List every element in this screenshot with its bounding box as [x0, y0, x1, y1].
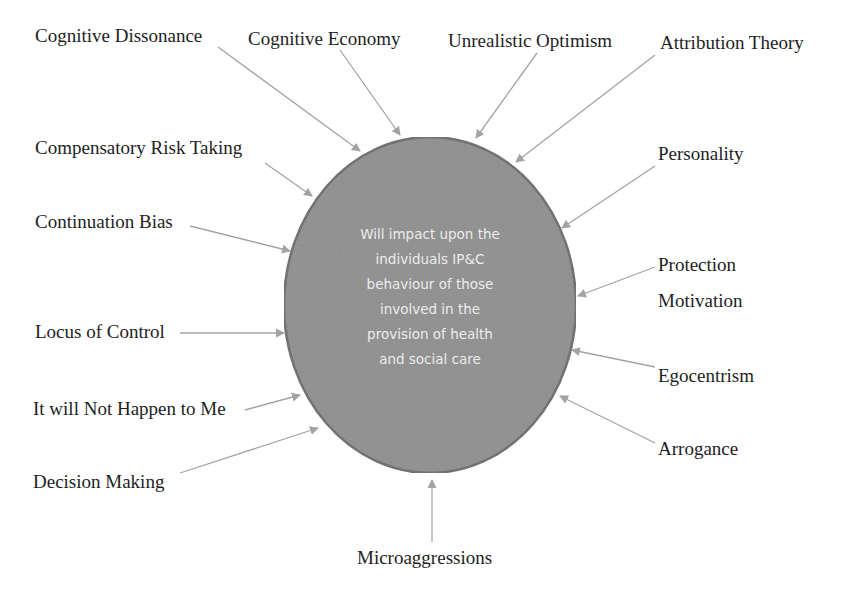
central-line: Will impact upon the — [330, 222, 530, 247]
factor-arrow — [560, 396, 655, 443]
factor-arrow — [245, 395, 300, 410]
factor-label: Arrogance — [658, 438, 738, 460]
factor-label: Compensatory Risk Taking — [35, 137, 242, 159]
factor-arrow — [340, 50, 400, 135]
factor-label: Motivation — [658, 290, 742, 312]
factor-arrow — [562, 166, 655, 228]
factor-label: It will Not Happen to Me — [33, 398, 226, 420]
factor-label: Protection — [658, 254, 736, 276]
factor-arrow — [516, 55, 655, 162]
factor-label: Unrealistic Optimism — [448, 30, 612, 52]
factor-label: Cognitive Economy — [248, 28, 401, 50]
factor-arrow — [476, 53, 537, 138]
factor-label: Egocentrism — [658, 365, 754, 387]
central-line: involved in the — [330, 297, 530, 322]
factor-label: Personality — [658, 143, 744, 165]
central-line: behaviour of those — [330, 272, 530, 297]
factor-label: Decision Making — [33, 471, 164, 493]
factor-arrow — [218, 47, 360, 151]
factor-label: Attribution Theory — [660, 32, 804, 54]
factor-arrow — [265, 163, 312, 196]
central-statement: Will impact upon the individuals IP&C be… — [330, 222, 530, 372]
factor-arrow — [180, 428, 318, 473]
factor-label: Microaggressions — [357, 547, 492, 569]
central-line: and social care — [330, 347, 530, 372]
factor-label: Locus of Control — [35, 321, 165, 343]
factor-arrow — [190, 226, 290, 251]
factor-label: Continuation Bias — [35, 211, 173, 233]
factor-arrow — [578, 267, 655, 296]
factor-arrow — [572, 350, 655, 367]
factor-label: Cognitive Dissonance — [35, 25, 202, 47]
central-line: provision of health — [330, 322, 530, 347]
central-line: individuals IP&C — [330, 247, 530, 272]
